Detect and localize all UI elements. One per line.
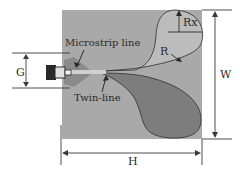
- radius-label: R: [160, 45, 169, 58]
- width-label: W: [220, 68, 232, 81]
- microstrip-line-label: Microstrip line: [65, 37, 140, 48]
- gap-label: G: [16, 66, 25, 79]
- height-label: H: [128, 155, 138, 168]
- twin-line-strip: [70, 70, 106, 74]
- rx-label: Rx: [183, 16, 198, 29]
- twin-line-label: Twin-line: [74, 92, 121, 103]
- antenna-diagram: G Microstrip line Twin-line R Rx: [0, 0, 240, 175]
